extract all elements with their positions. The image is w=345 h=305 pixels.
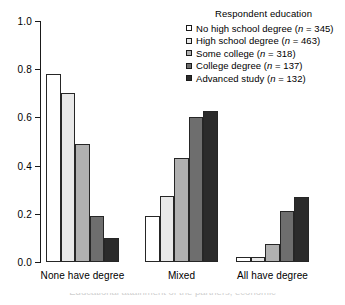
bars-container — [0, 0, 345, 305]
x-axis-label-mixed: Mixed — [168, 270, 195, 281]
caption-text: Educational attainment of the partners, … — [69, 293, 275, 297]
bar — [189, 117, 204, 262]
bar — [294, 197, 309, 262]
bar — [203, 111, 218, 262]
bar — [90, 216, 105, 262]
bar — [174, 158, 189, 262]
clipped-caption: Educational attainment of the partners, … — [0, 293, 345, 305]
bar — [61, 93, 76, 262]
bar — [265, 244, 280, 262]
bar — [251, 257, 266, 262]
bar — [280, 211, 295, 262]
bar — [46, 74, 61, 262]
bar — [75, 144, 90, 262]
bar — [236, 257, 251, 262]
bar — [145, 216, 160, 262]
bar-chart-figure: Respondent education No high school degr… — [0, 0, 345, 305]
bar — [104, 238, 119, 262]
x-axis-label-none-have-degree: None have degree — [41, 270, 125, 281]
x-axis-label-all-have-degree: All have degree — [237, 270, 308, 281]
bar — [160, 196, 175, 262]
plot-area: 0.00.20.40.60.81.0 None have degreeMixed… — [0, 0, 345, 305]
